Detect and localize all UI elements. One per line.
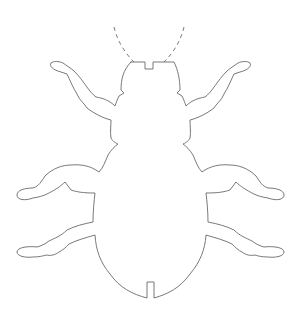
bug-body-outline <box>17 62 284 299</box>
right-antenna <box>164 27 184 62</box>
bug-outline-drawing <box>0 0 301 318</box>
left-antenna <box>114 27 134 62</box>
